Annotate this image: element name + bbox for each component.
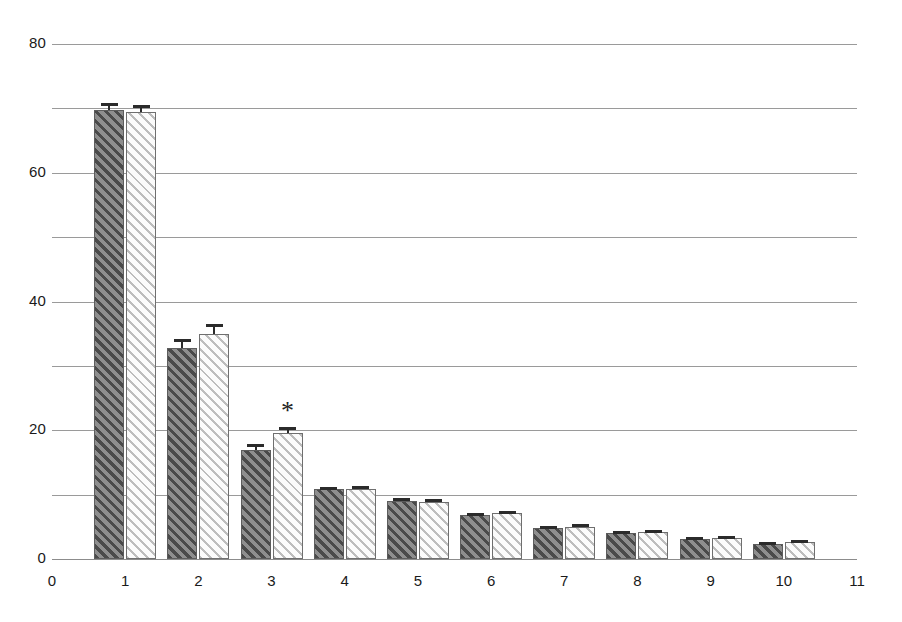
error-bar-cap-light-hatched-cat-8 <box>645 530 662 533</box>
x-tick-label-7: 7 <box>544 572 584 589</box>
x-tick-label-4: 4 <box>325 572 365 589</box>
bar-dark-hatched-cat-10 <box>753 544 783 559</box>
bar-dark-hatched-cat-2 <box>167 348 197 559</box>
x-tick-label-2: 2 <box>178 572 218 589</box>
error-bar-cap-dark-hatched-cat-8 <box>613 531 630 534</box>
bar-light-hatched-cat-6 <box>492 513 522 559</box>
error-bar-cap-dark-hatched-cat-6 <box>467 513 484 516</box>
y-tick-label-80: 80 <box>0 34 46 51</box>
bar-light-hatched-cat-5 <box>419 502 449 559</box>
bar-dark-hatched-cat-9 <box>680 539 710 559</box>
plot-area: * <box>52 44 857 559</box>
error-bar-cap-light-hatched-cat-4 <box>352 486 369 489</box>
y-tick-label-20: 20 <box>0 420 46 437</box>
error-bar-cap-dark-hatched-cat-9 <box>686 537 703 540</box>
x-tick-label-6: 6 <box>471 572 511 589</box>
bar-light-hatched-cat-7 <box>565 527 595 559</box>
bar-chart: * 020406080 01234567891011 <box>0 0 902 622</box>
bar-dark-hatched-cat-8 <box>606 533 636 559</box>
error-bar-cap-dark-hatched-cat-2 <box>174 339 191 342</box>
x-tick-label-9: 9 <box>691 572 731 589</box>
bar-light-hatched-cat-2 <box>199 334 229 559</box>
bar-light-hatched-cat-10 <box>785 542 815 559</box>
bar-dark-hatched-cat-6 <box>460 515 490 559</box>
error-bar-cap-dark-hatched-cat-5 <box>393 498 410 501</box>
bar-light-hatched-cat-4 <box>346 489 376 559</box>
bar-light-hatched-cat-1 <box>126 112 156 559</box>
error-bar-cap-light-hatched-cat-7 <box>572 524 589 527</box>
x-tick-label-10: 10 <box>764 572 804 589</box>
error-bar-cap-light-hatched-cat-2 <box>206 324 223 327</box>
gridline-60 <box>52 173 857 174</box>
x-tick-label-5: 5 <box>398 572 438 589</box>
bar-dark-hatched-cat-4 <box>314 489 344 559</box>
y-tick-label-40: 40 <box>0 292 46 309</box>
error-bar-cap-dark-hatched-cat-1 <box>101 103 118 106</box>
error-bar-cap-light-hatched-cat-9 <box>718 536 735 539</box>
bar-dark-hatched-cat-3 <box>241 450 271 559</box>
y-tick-label-0: 0 <box>0 549 46 566</box>
bar-dark-hatched-cat-7 <box>533 528 563 559</box>
gridline-70 <box>52 108 857 109</box>
error-bar-cap-dark-hatched-cat-3 <box>247 444 264 447</box>
x-tick-label-1: 1 <box>105 572 145 589</box>
gridline-80 <box>52 44 857 45</box>
bar-light-hatched-cat-8 <box>638 532 668 559</box>
error-bar-cap-light-hatched-cat-10 <box>791 540 808 543</box>
x-tick-label-0: 0 <box>32 572 72 589</box>
error-bar-cap-light-hatched-cat-6 <box>499 511 516 514</box>
y-tick-label-60: 60 <box>0 163 46 180</box>
bar-light-hatched-cat-3 <box>273 433 303 559</box>
x-axis-baseline <box>52 559 857 560</box>
bar-dark-hatched-cat-5 <box>387 501 417 559</box>
x-tick-label-8: 8 <box>617 572 657 589</box>
error-bar-cap-dark-hatched-cat-10 <box>759 542 776 545</box>
x-tick-label-3: 3 <box>252 572 292 589</box>
gridline-40 <box>52 302 857 303</box>
x-tick-label-11: 11 <box>837 572 877 589</box>
error-bar-cap-light-hatched-cat-3 <box>279 427 296 430</box>
gridline-50 <box>52 237 857 238</box>
error-bar-cap-dark-hatched-cat-4 <box>320 487 337 490</box>
error-bar-cap-light-hatched-cat-5 <box>425 499 442 502</box>
significance-asterisk: * <box>281 398 294 424</box>
error-bar-cap-light-hatched-cat-1 <box>133 105 150 108</box>
bar-dark-hatched-cat-1 <box>94 110 124 559</box>
error-bar-cap-dark-hatched-cat-7 <box>540 526 557 529</box>
bar-light-hatched-cat-9 <box>712 538 742 559</box>
